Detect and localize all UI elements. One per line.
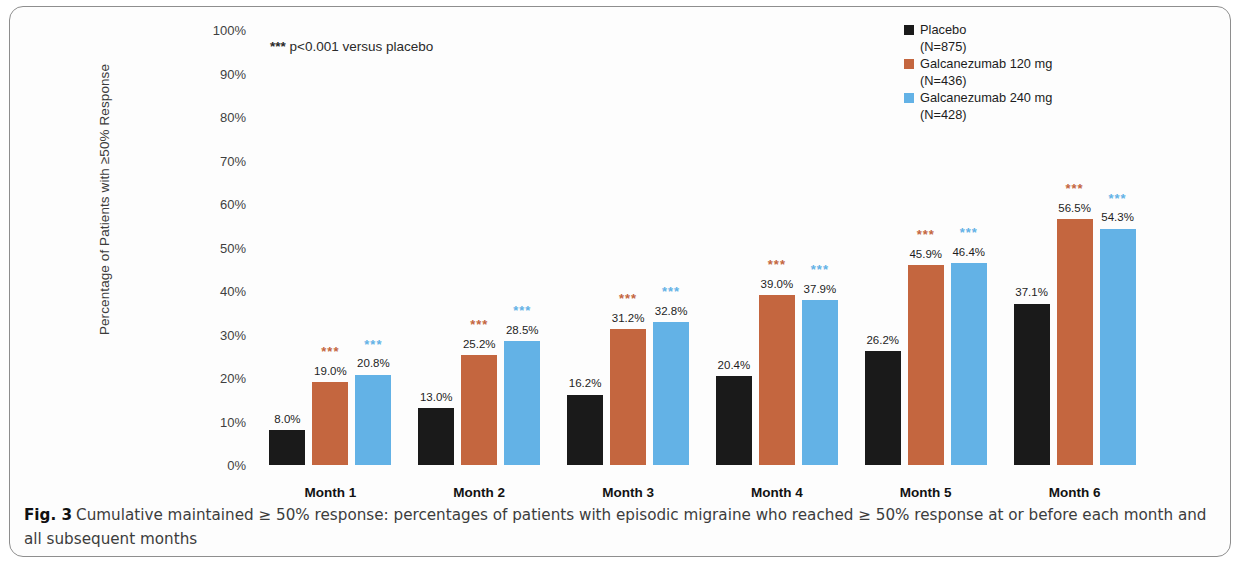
bar-value-label: 20.4% <box>718 360 751 372</box>
bar[interactable] <box>610 329 646 465</box>
y-axis-title: Percentage of Patients with ≥50% Respons… <box>97 35 112 365</box>
bar-value-label: 8.0% <box>274 414 300 426</box>
significance-marker: *** <box>470 318 488 331</box>
legend-swatch-icon <box>904 93 914 103</box>
bar-value-label: 45.9% <box>909 249 942 261</box>
significance-marker: *** <box>321 345 339 358</box>
bar-slot: 32.8%*** <box>653 30 689 465</box>
y-axis-tick: 70% <box>220 153 246 168</box>
significance-marker: *** <box>513 304 531 317</box>
bar-value-label: 32.8% <box>655 306 688 318</box>
bar-slot: 37.9%*** <box>802 30 838 465</box>
bar-slot: 26.2% <box>865 30 901 465</box>
bar-slot: 20.4% <box>716 30 752 465</box>
bar[interactable] <box>567 395 603 465</box>
bar-slot: 28.5%*** <box>504 30 540 465</box>
bar-value-label: 26.2% <box>866 335 899 347</box>
bar-slot: 25.2%*** <box>461 30 497 465</box>
bar-slot: 31.2%*** <box>610 30 646 465</box>
y-axis-tick: 100% <box>213 23 246 38</box>
legend-series-n: (N=875) <box>920 39 967 56</box>
bar[interactable] <box>312 382 348 465</box>
legend-label-block: Galcanezumab 120 mg(N=436) <box>920 56 1052 89</box>
bar[interactable] <box>1100 229 1136 465</box>
significance-marker: *** <box>662 285 680 298</box>
legend-series-n: (N=428) <box>920 107 1052 124</box>
bar-slot: 19.0%*** <box>312 30 348 465</box>
legend-swatch-icon <box>904 59 914 69</box>
bar-slot: 16.2% <box>567 30 603 465</box>
bar-slot: 39.0%*** <box>759 30 795 465</box>
bar-group-bars: 13.0%25.2%***28.5%*** <box>405 30 554 465</box>
bar-value-label: 39.0% <box>761 279 794 291</box>
bar-value-label: 37.9% <box>804 284 837 296</box>
legend-series-name: Galcanezumab 120 mg <box>920 56 1052 71</box>
y-axis-tick: 30% <box>220 327 246 342</box>
bar[interactable] <box>1014 304 1050 465</box>
chart-legend: Placebo(N=875)Galcanezumab 120 mg(N=436)… <box>904 22 1224 124</box>
bar[interactable] <box>355 375 391 465</box>
legend-series-name: Placebo <box>920 22 966 37</box>
bar[interactable] <box>951 263 987 465</box>
bar-value-label: 31.2% <box>612 313 645 325</box>
legend-item[interactable]: Galcanezumab 240 mg(N=428) <box>904 90 1224 123</box>
y-axis-tick: 50% <box>220 240 246 255</box>
y-axis-tick: 20% <box>220 371 246 386</box>
bar[interactable] <box>802 300 838 465</box>
bar-value-label: 56.5% <box>1058 203 1091 215</box>
y-axis-tick: 90% <box>220 66 246 81</box>
figure-number: Fig. 3 <box>24 506 72 524</box>
bar[interactable] <box>865 351 901 465</box>
significance-marker: *** <box>364 338 382 351</box>
bar[interactable] <box>908 265 944 465</box>
bar-value-label: 28.5% <box>506 325 539 337</box>
legend-item[interactable]: Placebo(N=875) <box>904 22 1224 55</box>
bar-slot: 8.0% <box>269 30 305 465</box>
significance-marker: *** <box>811 263 829 276</box>
x-axis-tick: Month 1 <box>305 485 357 500</box>
x-axis-tick: Month 3 <box>602 485 654 500</box>
bar-slot: 20.8%*** <box>355 30 391 465</box>
bar-group-bars: 20.4%39.0%***37.9%*** <box>703 30 852 465</box>
bar[interactable] <box>461 355 497 465</box>
x-axis-tick: Month 6 <box>1049 485 1101 500</box>
bar[interactable] <box>716 376 752 465</box>
legend-swatch-icon <box>904 25 914 35</box>
bar-group: 13.0%25.2%***28.5%***Month 2 <box>405 30 554 465</box>
legend-label-block: Placebo(N=875) <box>920 22 967 55</box>
y-axis-tick: 80% <box>220 110 246 125</box>
y-axis-tick: 60% <box>220 197 246 212</box>
significance-marker: *** <box>917 228 935 241</box>
bar[interactable] <box>418 408 454 465</box>
bar-value-label: 54.3% <box>1101 212 1134 224</box>
chart-panel: Percentage of Patients with ≥50% Respons… <box>9 6 1231 493</box>
bar[interactable] <box>504 341 540 465</box>
bar-value-label: 37.1% <box>1015 287 1048 299</box>
bar-group: 16.2%31.2%***32.8%***Month 3 <box>554 30 703 465</box>
bar-group-bars: 16.2%31.2%***32.8%*** <box>554 30 703 465</box>
y-axis-tick: 0% <box>227 458 246 473</box>
bar[interactable] <box>653 322 689 465</box>
y-axis-tick: 40% <box>220 284 246 299</box>
significance-marker: *** <box>768 258 786 271</box>
significance-marker: *** <box>1108 192 1126 205</box>
legend-series-n: (N=436) <box>920 73 1052 90</box>
significance-marker: *** <box>960 226 978 239</box>
bar-group: 8.0%19.0%***20.8%***Month 1 <box>256 30 405 465</box>
bar-value-label: 20.8% <box>357 358 390 370</box>
bar-value-label: 46.4% <box>952 247 985 259</box>
bar[interactable] <box>1057 219 1093 465</box>
bar-value-label: 25.2% <box>463 339 496 351</box>
y-axis-tick: 10% <box>220 414 246 429</box>
figure-caption: Fig. 3Cumulative maintained ≥ 50% respon… <box>24 503 1219 551</box>
significance-marker: *** <box>1065 182 1083 195</box>
bar-group: 20.4%39.0%***37.9%***Month 4 <box>703 30 852 465</box>
legend-item[interactable]: Galcanezumab 120 mg(N=436) <box>904 56 1224 89</box>
legend-label-block: Galcanezumab 240 mg(N=428) <box>920 90 1052 123</box>
x-axis-tick: Month 5 <box>900 485 952 500</box>
bar[interactable] <box>269 430 305 465</box>
bar-value-label: 13.0% <box>420 392 453 404</box>
significance-marker: *** <box>619 292 637 305</box>
bar[interactable] <box>759 295 795 465</box>
x-axis-tick: Month 4 <box>751 485 803 500</box>
